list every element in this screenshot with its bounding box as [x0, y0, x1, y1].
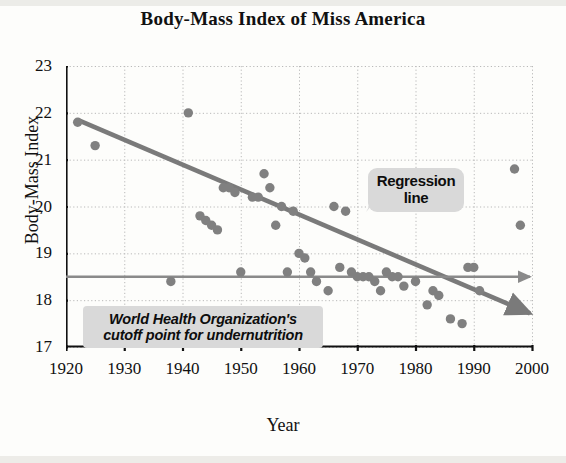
- data-point: [271, 221, 280, 230]
- x-tick-label-1930: 1930: [97, 359, 151, 379]
- data-point: [329, 202, 338, 211]
- data-point: [393, 272, 402, 281]
- data-point: [259, 169, 268, 178]
- data-point: [265, 183, 274, 192]
- data-point: [288, 206, 297, 215]
- data-point: [516, 221, 525, 230]
- x-tick-label-1920: 1920: [39, 359, 93, 379]
- data-point: [399, 281, 408, 290]
- regression-callout-line2: line: [404, 189, 429, 206]
- data-point: [184, 108, 193, 117]
- data-point: [277, 202, 286, 211]
- regression-callout-line1: Regression: [377, 172, 456, 189]
- data-point: [254, 192, 263, 201]
- data-point: [73, 118, 82, 127]
- data-point: [230, 188, 239, 197]
- data-point: [411, 277, 420, 286]
- data-point: [312, 277, 321, 286]
- x-axis-label: Year: [0, 415, 566, 436]
- data-point: [300, 253, 309, 262]
- data-point: [213, 225, 222, 234]
- regression-line: [78, 120, 530, 313]
- data-point: [90, 141, 99, 150]
- data-point: [341, 206, 350, 215]
- data-point: [306, 267, 315, 276]
- who-callout-line1: World Health Organization's: [109, 311, 297, 327]
- x-tick-label-1960: 1960: [272, 359, 326, 379]
- data-point: [283, 267, 292, 276]
- who-cutoff-callout: World Health Organization's cutoff point…: [83, 306, 323, 348]
- data-point: [457, 319, 466, 328]
- x-tick-label-2000: 2000: [505, 359, 559, 379]
- data-point: [376, 286, 385, 295]
- data-point: [434, 291, 443, 300]
- y-tick-label-17: 17: [18, 337, 52, 357]
- regression-line-callout: Regression line: [368, 168, 464, 212]
- chart-figure: Body-Mass Index of Miss America 17181920…: [0, 0, 566, 463]
- y-axis-label: Body-Mass Index: [22, 30, 43, 330]
- data-point: [166, 277, 175, 286]
- scan-edge-bottom: [0, 456, 566, 463]
- who-callout-line2: cutoff point for undernutrition: [103, 327, 303, 343]
- x-tick-label-1950: 1950: [214, 359, 268, 379]
- x-tick-label-1970: 1970: [330, 359, 384, 379]
- x-tick-label-1990: 1990: [447, 359, 501, 379]
- data-point: [335, 263, 344, 272]
- x-tick-label-1980: 1980: [389, 359, 443, 379]
- data-point: [446, 314, 455, 323]
- data-point: [469, 263, 478, 272]
- data-point: [323, 286, 332, 295]
- x-tick-label-1940: 1940: [156, 359, 210, 379]
- data-point: [370, 277, 379, 286]
- scan-edge-top: [0, 0, 566, 6]
- data-point: [422, 300, 431, 309]
- page-title: Body-Mass Index of Miss America: [0, 8, 566, 30]
- data-point: [236, 267, 245, 276]
- data-point: [510, 164, 519, 173]
- data-point: [475, 286, 484, 295]
